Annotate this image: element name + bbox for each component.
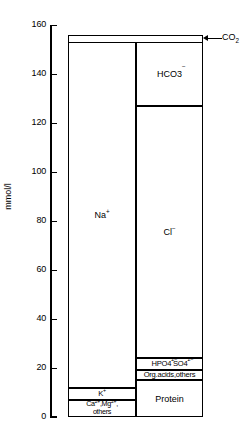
co2-annotation-label: CO2	[222, 33, 239, 42]
y-tick-label-80: 80	[0, 216, 46, 225]
gamblegram-chart: mmol/l 160 140 120 100 80 60 40 20 0 Na+…	[0, 0, 245, 440]
y-tick-label-60: 60	[0, 265, 46, 274]
segment-protein-label: Protein	[155, 394, 184, 404]
y-tick-label-20: 20	[0, 363, 46, 372]
segment-k: K+	[68, 388, 136, 400]
y-tick-120	[50, 123, 57, 125]
y-tick-80	[50, 221, 57, 223]
segment-protein: Protein	[136, 380, 203, 417]
segment-na: Na+	[68, 42, 136, 387]
y-tick-label-160: 160	[0, 20, 46, 29]
segment-org-acids-others: Org.acids,others	[136, 370, 203, 380]
y-tick-40	[50, 319, 57, 321]
y-tick-label-40: 40	[0, 314, 46, 323]
segment-hco3: HCO3−	[136, 42, 203, 106]
y-tick-label-140: 140	[0, 69, 46, 78]
y-tick-20	[50, 368, 57, 370]
y-tick-label-100: 100	[0, 167, 46, 176]
y-tick-140	[50, 74, 57, 76]
segment-k-label: K+	[98, 390, 106, 398]
segment-ca-mg-others-label: Ca2+,Mg2+,others	[86, 400, 118, 416]
y-tick-60	[50, 270, 57, 272]
y-tick-100	[50, 172, 57, 174]
segment-ca-mg-others: Ca2+,Mg2+,others	[68, 400, 136, 417]
segment-hpo4-so4-label: HPO42− SO42−	[151, 360, 187, 368]
segment-na-label: Na+	[94, 210, 109, 220]
segment-cl-label: Cl−	[163, 227, 175, 237]
co2-arrow-icon	[203, 35, 208, 41]
co2-leader-line	[208, 38, 222, 39]
segment-org-acids-others-label: Org.acids,others	[144, 371, 196, 379]
segment-cl: Cl−	[136, 106, 203, 358]
y-tick-label-0: 0	[0, 412, 46, 421]
y-axis-title: mmol/l	[4, 172, 13, 222]
y-tick-0	[50, 416, 57, 418]
segment-hco3-label: HCO3−	[157, 69, 182, 79]
y-tick-160	[50, 25, 57, 27]
y-tick-label-120: 120	[0, 118, 46, 127]
segment-hpo4-so4: HPO42− SO42−	[136, 358, 203, 370]
